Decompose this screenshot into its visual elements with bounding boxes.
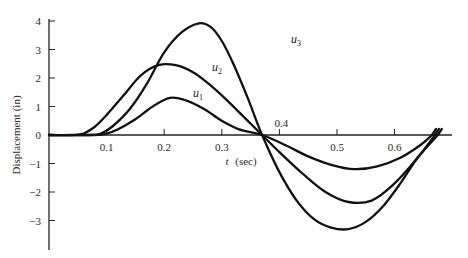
ticks: 43210−1−2−30.10.20.30.40.50.6: [29, 15, 402, 227]
axes: [49, 19, 452, 250]
y-tick-label: −2: [29, 186, 41, 198]
displacement-chart: 43210−1−2−30.10.20.30.40.50.6 Displaceme…: [0, 0, 468, 258]
x-axis-title: t (sec): [225, 155, 257, 168]
curves: [49, 23, 442, 230]
series-label-u2: u2: [212, 60, 222, 76]
y-tick-label: −1: [29, 158, 41, 170]
y-tick-label: −3: [29, 215, 41, 227]
y-tick-label: 4: [36, 15, 42, 27]
series-line-u3: [49, 23, 442, 230]
x-tick-label: 0.2: [157, 141, 171, 153]
x-tick-label: 0.1: [100, 141, 114, 153]
y-axis-title: Displacement (in): [10, 95, 23, 174]
y-tick-label: 3: [36, 44, 42, 56]
y-tick-label: 0: [36, 129, 42, 141]
x-tick-label: 0.3: [215, 141, 229, 153]
x-tick-label: 0.4: [275, 117, 289, 129]
y-tick-label: 2: [36, 72, 42, 84]
y-tick-label: 1: [36, 101, 42, 113]
series-label-u1: u1: [193, 86, 203, 102]
x-tick-label: 0.6: [388, 141, 402, 153]
x-tick-label: 0.5: [330, 141, 344, 153]
x-axis-title-unit: (sec): [235, 155, 257, 168]
x-axis-title-var: t: [225, 155, 229, 167]
series-label-u3: u3: [291, 32, 301, 48]
